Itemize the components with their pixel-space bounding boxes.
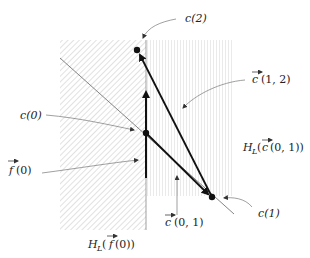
label-c2: c(2) bbox=[185, 12, 207, 25]
halfspace-f0-region bbox=[60, 40, 146, 230]
svg-text:c: c bbox=[165, 216, 171, 229]
diagram-canvas: c(2) c(0) c(1) c (1, 2) f (0) c (0, 1) H… bbox=[0, 0, 310, 258]
point-c0 bbox=[143, 130, 149, 136]
label-c12: c (1, 2) bbox=[252, 72, 291, 86]
svg-text:(1, 2): (1, 2) bbox=[261, 73, 291, 86]
label-c01: c (0, 1) bbox=[165, 215, 204, 229]
svg-text:(: ( bbox=[257, 141, 261, 154]
svg-text:c: c bbox=[252, 73, 258, 86]
svg-text:f: f bbox=[8, 164, 15, 177]
halfspace-c01-region bbox=[146, 40, 232, 196]
leader-c2 bbox=[143, 19, 176, 38]
svg-text:f: f bbox=[108, 238, 115, 251]
svg-text:(0)): (0)) bbox=[115, 238, 135, 251]
label-c1: c(1) bbox=[258, 207, 280, 220]
label-halfspace-f0: H L ( f (0)) bbox=[87, 236, 135, 253]
label-f0: f (0) bbox=[8, 161, 32, 177]
point-c2 bbox=[134, 47, 140, 53]
label-halfspace-c01: H L ( c (0, 1)) bbox=[242, 140, 304, 156]
svg-text:(0, 1): (0, 1) bbox=[174, 216, 204, 229]
point-c1 bbox=[209, 194, 215, 200]
svg-text:(: ( bbox=[102, 238, 106, 251]
svg-text:(0): (0) bbox=[16, 164, 32, 177]
label-c0: c(0) bbox=[20, 109, 42, 122]
svg-text:(0, 1)): (0, 1)) bbox=[270, 141, 304, 154]
svg-text:c: c bbox=[262, 141, 268, 154]
leader-c1 bbox=[224, 198, 252, 207]
